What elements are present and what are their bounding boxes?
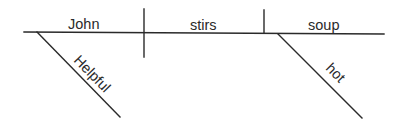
- object-modifier-word: hot: [323, 60, 349, 86]
- object-word: soup: [308, 17, 339, 33]
- sentence-diagram: John stirs soup Helpful hot: [0, 0, 400, 126]
- object-modifier-slant: [278, 34, 362, 118]
- subject-modifier-slant: [37, 32, 120, 117]
- verb-word: stirs: [190, 17, 217, 33]
- subject-word: John: [68, 16, 99, 32]
